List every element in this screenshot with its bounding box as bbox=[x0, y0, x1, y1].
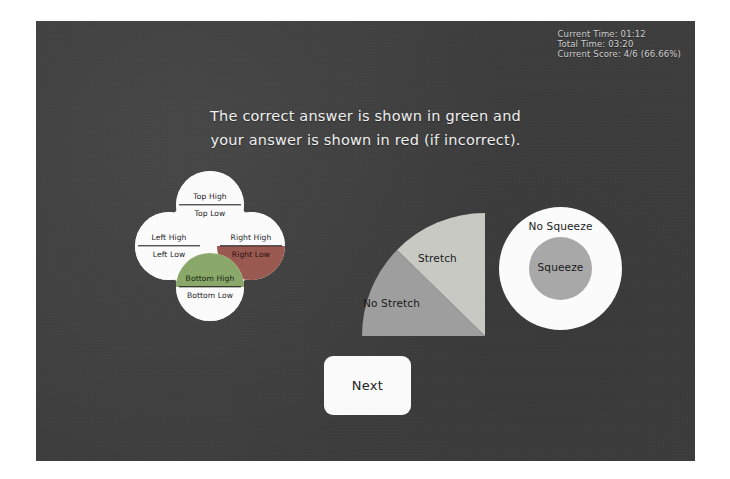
stretch-selector[interactable]: Stretch No Stretch bbox=[352, 207, 502, 342]
lobe-divider bbox=[179, 286, 241, 287]
instruction-text: The correct answer is shown in green and… bbox=[36, 104, 695, 152]
option-left-high[interactable]: Left High bbox=[135, 212, 203, 246]
direction-lobe-bottom[interactable]: Bottom High Bottom Low bbox=[176, 253, 244, 321]
option-right-high[interactable]: Right High bbox=[217, 212, 285, 246]
lobe-divider bbox=[179, 204, 241, 205]
instruction-line-1: The correct answer is shown in green and bbox=[36, 104, 695, 128]
option-bottom-high[interactable]: Bottom High bbox=[176, 253, 244, 287]
squeeze-label: Squeeze bbox=[499, 261, 622, 273]
next-button[interactable]: Next bbox=[324, 356, 411, 415]
no-squeeze-label: No Squeeze bbox=[499, 220, 622, 232]
lobe-divider bbox=[138, 245, 200, 246]
option-top-high[interactable]: Top High bbox=[176, 171, 244, 205]
option-bottom-low[interactable]: Bottom Low bbox=[176, 287, 244, 321]
stretch-label: Stretch bbox=[418, 252, 457, 264]
no-stretch-label: No Stretch bbox=[363, 297, 420, 309]
stretch-wedges bbox=[352, 207, 502, 342]
experiment-screen: Current Time: 01:12 Total Time: 03:20 Cu… bbox=[0, 0, 730, 479]
stimulus-panel: Current Time: 01:12 Total Time: 03:20 Cu… bbox=[36, 21, 695, 461]
instruction-line-2: your answer is shown in red (if incorrec… bbox=[36, 128, 695, 152]
direction-selector[interactable]: Top High Top Low Left High Left Low Righ… bbox=[135, 171, 285, 321]
lobe-divider bbox=[220, 245, 282, 246]
status-hud: Current Time: 01:12 Total Time: 03:20 Cu… bbox=[558, 30, 681, 59]
squeeze-selector[interactable]: No Squeeze Squeeze bbox=[499, 207, 622, 330]
current-score-readout: Current Score: 4/6 (66.66%) bbox=[558, 50, 681, 60]
